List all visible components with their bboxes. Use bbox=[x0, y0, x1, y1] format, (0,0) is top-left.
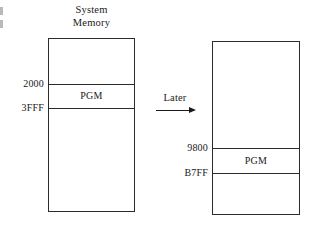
address-label-before-start: 2000 bbox=[8, 78, 44, 89]
scan-artifact-upper bbox=[0, 7, 3, 15]
memory-relocation-diagram: System Memory PGM 2000 3FFF Later PGM 98… bbox=[0, 0, 312, 232]
scan-artifact-lower bbox=[0, 20, 3, 28]
memory-box-after bbox=[212, 41, 300, 215]
transition-arrow-icon bbox=[156, 107, 196, 115]
arrow-shaft bbox=[156, 110, 190, 111]
address-label-before-end: 3FFF bbox=[8, 102, 44, 113]
arrow-head bbox=[189, 107, 196, 113]
memory-divider-before-start bbox=[48, 84, 135, 85]
memory-divider-after-end bbox=[212, 173, 300, 174]
diagram-title: System Memory bbox=[48, 3, 135, 29]
program-block-label-after: PGM bbox=[212, 155, 300, 166]
address-label-after-start: 9800 bbox=[172, 142, 208, 153]
memory-box-before bbox=[48, 38, 135, 212]
diagram-title-line-2: Memory bbox=[48, 16, 135, 29]
address-label-after-end: B7FF bbox=[172, 167, 208, 178]
memory-divider-before-end bbox=[48, 108, 135, 109]
diagram-title-line-1: System bbox=[48, 3, 135, 16]
memory-divider-after-start bbox=[212, 148, 300, 149]
program-block-label-before: PGM bbox=[48, 90, 135, 101]
transition-label: Later bbox=[152, 92, 198, 104]
